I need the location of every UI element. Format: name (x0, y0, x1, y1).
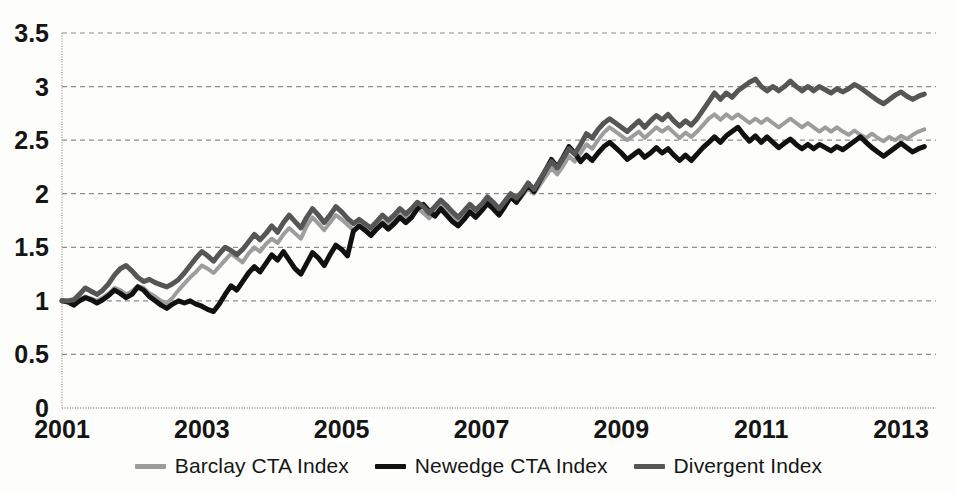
y-tick-label: 1 (35, 287, 49, 315)
legend-color-swatch (634, 464, 665, 469)
legend-color-swatch (375, 464, 406, 469)
chart-figure: 00.511.522.533.5 20012003200520072009201… (0, 0, 957, 494)
series-line (62, 127, 924, 311)
x-tick-label: 2001 (34, 415, 90, 443)
legend-item[interactable]: Barclay CTA Index (135, 454, 349, 478)
legend-label: Newedge CTA Index (415, 454, 608, 478)
x-tick-label: 2011 (734, 415, 788, 443)
y-axis-tick-labels: 00.511.522.533.5 (14, 19, 49, 422)
legend-label: Divergent Index (674, 454, 823, 478)
x-tick-label: 2009 (594, 415, 650, 443)
line-chart-plot: 00.511.522.533.5 20012003200520072009201… (0, 0, 957, 447)
y-tick-label: 2 (35, 180, 49, 208)
x-tick-label: 2005 (314, 415, 370, 443)
y-tick-label: 3 (35, 73, 49, 101)
legend-item[interactable]: Newedge CTA Index (375, 454, 608, 478)
x-axis-tick-labels: 2001200320052007200920112013 (34, 415, 929, 443)
legend-color-swatch (135, 464, 166, 469)
x-tick-label: 2007 (454, 415, 510, 443)
data-series-lines (62, 79, 924, 312)
series-line (62, 79, 924, 301)
x-tick-label: 2013 (873, 415, 929, 443)
chart-legend: Barclay CTA IndexNewedge CTA IndexDiverg… (0, 447, 957, 485)
y-tick-label: 0.5 (14, 340, 49, 368)
y-tick-label: 3.5 (14, 19, 49, 47)
legend-item[interactable]: Divergent Index (634, 454, 823, 478)
y-tick-label: 2.5 (14, 126, 49, 154)
legend-label: Barclay CTA Index (175, 454, 349, 478)
y-tick-label: 1.5 (14, 233, 49, 261)
x-tick-label: 2003 (174, 415, 230, 443)
